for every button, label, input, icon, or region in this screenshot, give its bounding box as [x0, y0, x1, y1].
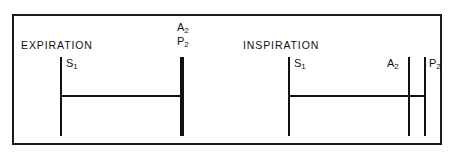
inspiration-baseline [288, 95, 426, 97]
expiration-a2-label: A2 [177, 22, 189, 35]
inspiration-p2-label: P2 [429, 58, 441, 71]
inspiration-s1-label-subscript: 1 [301, 62, 305, 71]
inspiration-s1-label: S1 [294, 58, 306, 71]
expiration-caption: EXPIRATION [21, 39, 93, 51]
inspiration-a2-label-subscript: 2 [394, 62, 398, 71]
expiration-p2-label-subscript: 2 [184, 40, 188, 49]
figure-border [12, 14, 442, 145]
expiration-baseline [60, 95, 184, 97]
inspiration-a2-label: A2 [387, 58, 399, 71]
inspiration-p2-label-subscript: 2 [436, 62, 440, 71]
expiration-s1-label-subscript: 1 [73, 62, 77, 71]
inspiration-caption: INSPIRATION [243, 39, 319, 51]
expiration-a2-label-subscript: 2 [184, 26, 188, 35]
expiration-p2-label: P2 [177, 36, 189, 49]
expiration-s1-label: S1 [66, 58, 78, 71]
heart-sound-splitting-figure: EXPIRATION S1 A2 P2 INSPIRATION S1 A2 P2 [0, 0, 458, 162]
